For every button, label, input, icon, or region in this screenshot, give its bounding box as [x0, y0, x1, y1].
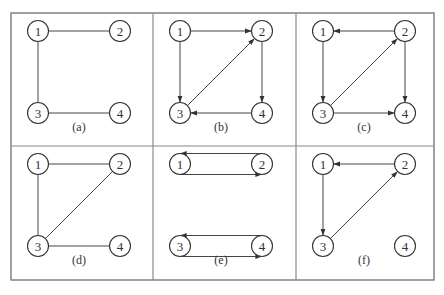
edges	[180, 154, 262, 257]
node-label: 2	[259, 157, 266, 172]
node-1: 1	[28, 154, 49, 175]
node-4: 4	[395, 236, 416, 257]
graph-figure: 1234(a)1234(b)1234(c)1234(d)1234(e)1234(…	[0, 0, 444, 295]
node-label: 3	[320, 239, 327, 254]
node-label: 4	[259, 239, 266, 254]
node-2: 2	[395, 21, 416, 42]
figure-canvas: 1234(a)1234(b)1234(c)1234(d)1234(e)1234(…	[0, 0, 444, 295]
node-3: 3	[170, 236, 191, 257]
edge-3-2	[45, 171, 112, 238]
figure-frame	[11, 13, 434, 280]
node-label: 1	[320, 24, 327, 39]
node-label: 2	[402, 24, 409, 39]
edge-3-2-arrow	[330, 38, 397, 105]
node-label: 4	[402, 106, 409, 121]
edge-3-2-arrow	[187, 38, 254, 105]
panel-f: 1234(f)	[313, 154, 416, 268]
node-label: 4	[259, 106, 266, 121]
panel-d: 1234(d)	[28, 154, 131, 268]
node-label: 3	[35, 106, 42, 121]
panels-grid: 1234(a)1234(b)1234(c)1234(d)1234(e)1234(…	[28, 21, 416, 268]
panel-e: 1234(e)	[170, 154, 273, 268]
edges	[323, 164, 398, 239]
node-label: 3	[177, 106, 184, 121]
node-label: 2	[402, 157, 409, 172]
panel-caption: (e)	[214, 253, 227, 267]
node-1: 1	[170, 154, 191, 175]
node-4: 4	[110, 236, 131, 257]
panel-c: 1234(c)	[313, 21, 416, 135]
node-2: 2	[110, 154, 131, 175]
node-label: 3	[320, 106, 327, 121]
node-label: 1	[320, 157, 327, 172]
node-2: 2	[252, 154, 273, 175]
node-1: 1	[28, 21, 49, 42]
node-3: 3	[313, 103, 334, 124]
panel-caption: (a)	[72, 120, 85, 134]
node-label: 1	[35, 24, 42, 39]
edges	[323, 31, 405, 113]
node-label: 2	[117, 157, 124, 172]
node-2: 2	[110, 21, 131, 42]
node-3: 3	[313, 236, 334, 257]
node-label: 4	[402, 239, 409, 254]
edge-3-2-arrow	[330, 171, 397, 238]
node-label: 4	[117, 239, 124, 254]
node-3: 3	[28, 236, 49, 257]
panel-a: 1234(a)	[28, 21, 131, 135]
node-label: 1	[177, 24, 184, 39]
node-4: 4	[110, 103, 131, 124]
panel-caption: (d)	[72, 253, 86, 267]
node-4: 4	[252, 103, 273, 124]
edges	[38, 164, 113, 246]
node-2: 2	[395, 154, 416, 175]
panel-caption: (c)	[357, 120, 370, 134]
node-1: 1	[313, 154, 334, 175]
node-label: 1	[177, 157, 184, 172]
panel-caption: (b)	[214, 120, 228, 134]
node-label: 2	[259, 24, 266, 39]
node-3: 3	[170, 103, 191, 124]
node-label: 3	[177, 239, 184, 254]
node-1: 1	[313, 21, 334, 42]
node-4: 4	[252, 236, 273, 257]
node-label: 1	[35, 157, 42, 172]
node-1: 1	[170, 21, 191, 42]
edges	[180, 31, 262, 113]
panel-caption: (f)	[358, 253, 370, 267]
panel-b: 1234(b)	[170, 21, 273, 135]
node-label: 4	[117, 106, 124, 121]
node-label: 3	[35, 239, 42, 254]
node-2: 2	[252, 21, 273, 42]
edges	[38, 31, 110, 113]
node-4: 4	[395, 103, 416, 124]
node-3: 3	[28, 103, 49, 124]
node-label: 2	[117, 24, 124, 39]
